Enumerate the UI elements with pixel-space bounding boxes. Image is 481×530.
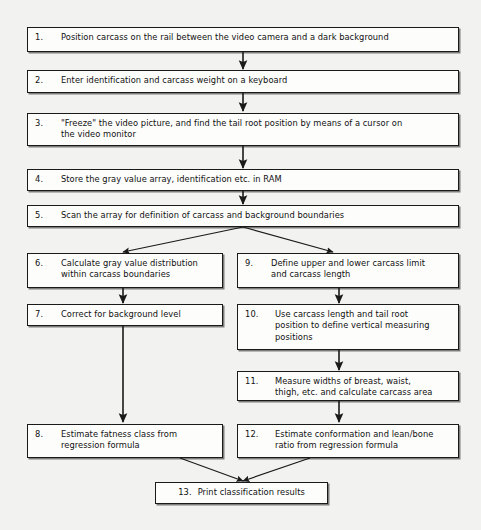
step-text-13: Print classification results xyxy=(198,487,305,498)
step-box-6[interactable]: 6. Calculate gray value distribution wit… xyxy=(27,253,223,288)
step-box-9[interactable]: 9. Define upper and lower carcass limit … xyxy=(237,253,459,288)
step-number-13: 13. xyxy=(178,487,192,498)
step-box-11[interactable]: 11. Measure widths of breast, waist, thi… xyxy=(237,371,459,401)
step-number-5: 5. xyxy=(35,210,61,221)
step-box-2[interactable]: 2. Enter identification and carcass weig… xyxy=(27,70,459,93)
step-text-1: Position carcass on the rail between the… xyxy=(61,32,453,43)
step-box-3[interactable]: 3. "Freeze" the video picture, and find … xyxy=(27,113,459,146)
step-text-3: "Freeze" the video picture, and find the… xyxy=(61,118,453,141)
step-number-4: 4. xyxy=(35,174,61,185)
step-text-5: Scan the array for definition of carcass… xyxy=(61,210,453,221)
step-text-7: Correct for background level xyxy=(61,309,217,320)
step-box-4[interactable]: 4. Store the gray value array, identific… xyxy=(27,169,459,191)
step-number-7: 7. xyxy=(35,309,61,320)
step-text-9: Define upper and lower carcass limit and… xyxy=(271,258,453,281)
step-text-10: Use carcass length and tail root positio… xyxy=(275,309,453,343)
step-number-11: 11. xyxy=(245,376,275,387)
step-text-12: Estimate conformation and lean/bone rati… xyxy=(275,429,453,452)
step-text-6: Calculate gray value distribution within… xyxy=(61,258,217,281)
flowchart-diagram: 1. Position carcass on the rail between … xyxy=(0,0,481,530)
step-box-10[interactable]: 10. Use carcass length and tail root pos… xyxy=(237,304,459,350)
merge-12-to-13 xyxy=(243,458,310,481)
step-number-3: 3. xyxy=(35,118,61,129)
step-text-2: Enter identification and carcass weight … xyxy=(61,75,453,86)
step-number-8: 8. xyxy=(35,429,61,440)
step-number-1: 1. xyxy=(35,32,61,43)
step-text-8: Estimate fatness class from regression f… xyxy=(61,429,217,452)
step-number-9: 9. xyxy=(245,258,271,269)
step-box-1[interactable]: 1. Position carcass on the rail between … xyxy=(27,27,459,52)
step-box-7[interactable]: 7. Correct for background level xyxy=(27,304,223,326)
step-box-5[interactable]: 5. Scan the array for definition of carc… xyxy=(27,205,459,227)
step-number-12: 12. xyxy=(245,429,275,440)
branch-5-to-6 xyxy=(123,227,243,252)
step-box-8[interactable]: 8. Estimate fatness class from regressio… xyxy=(27,424,223,458)
branch-5-to-9 xyxy=(243,227,333,252)
step-text-11: Measure widths of breast, waist, thigh, … xyxy=(275,376,453,399)
step-number-10: 10. xyxy=(245,309,275,320)
step-box-12[interactable]: 12. Estimate conformation and lean/bone … xyxy=(237,424,459,458)
merge-8-to-13 xyxy=(180,458,243,481)
step-number-2: 2. xyxy=(35,75,61,86)
step-box-13[interactable]: 13. Print classification results xyxy=(155,482,328,504)
step-number-6: 6. xyxy=(35,258,61,269)
step-text-4: Store the gray value array, identificati… xyxy=(61,174,453,185)
